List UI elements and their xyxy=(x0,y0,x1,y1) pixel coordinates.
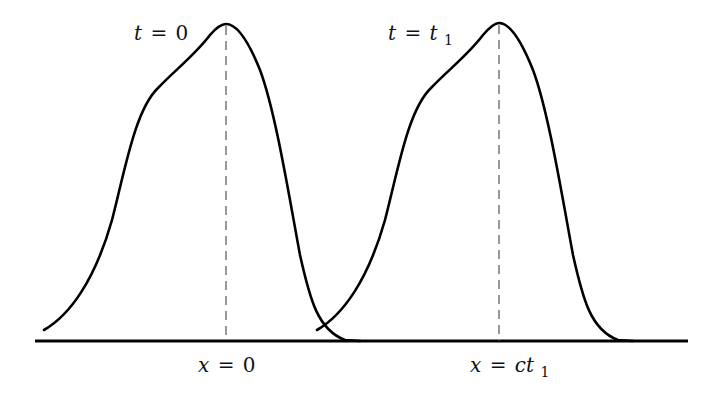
position-label-ct1: x = ct 1 xyxy=(470,353,549,380)
position-label-x0: x = 0 xyxy=(198,353,256,377)
pulse-t1 xyxy=(317,23,633,341)
time-label-t1: t = t 1 xyxy=(388,21,453,48)
pulse-curve-t0 xyxy=(44,24,360,341)
pulse-curve-t1 xyxy=(317,23,633,341)
pulse-t0 xyxy=(44,24,360,341)
time-label-t0: t = 0 xyxy=(134,21,188,45)
wave-pulse-diagram: t = 0 t = t 1 x = 0 x = ct 1 xyxy=(0,0,723,397)
